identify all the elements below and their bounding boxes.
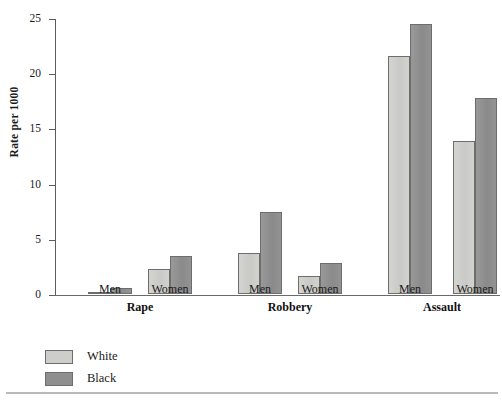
legend-label-white: White xyxy=(87,349,118,364)
plot-area xyxy=(55,19,500,295)
y-tick-label: 25 xyxy=(11,13,41,24)
y-tick-label: 20 xyxy=(11,68,41,79)
y-tick-label: 15 xyxy=(11,123,41,134)
bar-black xyxy=(410,24,432,294)
y-tick-label: 10 xyxy=(11,179,41,190)
subgroup-label: Women xyxy=(130,282,210,297)
legend-swatch-black-icon xyxy=(45,372,73,386)
group-label: Assault xyxy=(382,300,502,315)
bar-chart: Rate per 1000 0510152025 MenWomenRapeMen… xyxy=(0,0,502,402)
legend-swatch-white-icon xyxy=(45,350,73,364)
group-label: Robbery xyxy=(230,300,350,315)
y-tick-label: 0 xyxy=(11,289,41,300)
legend-label-black: Black xyxy=(87,371,116,386)
footer-divider xyxy=(6,392,498,394)
y-axis-label: Rate per 1000 xyxy=(8,72,20,172)
legend: White Black xyxy=(45,347,118,391)
bar-white xyxy=(453,141,475,294)
legend-item-black[interactable]: Black xyxy=(45,369,118,388)
subgroup-label: Women xyxy=(435,282,502,297)
legend-item-white[interactable]: White xyxy=(45,347,118,366)
y-tick-label: 5 xyxy=(11,234,41,245)
group-label: Rape xyxy=(80,300,200,315)
subgroup-label: Women xyxy=(280,282,360,297)
y-axis-line xyxy=(55,19,56,296)
bar-black xyxy=(475,98,497,295)
bar-white xyxy=(388,56,410,294)
